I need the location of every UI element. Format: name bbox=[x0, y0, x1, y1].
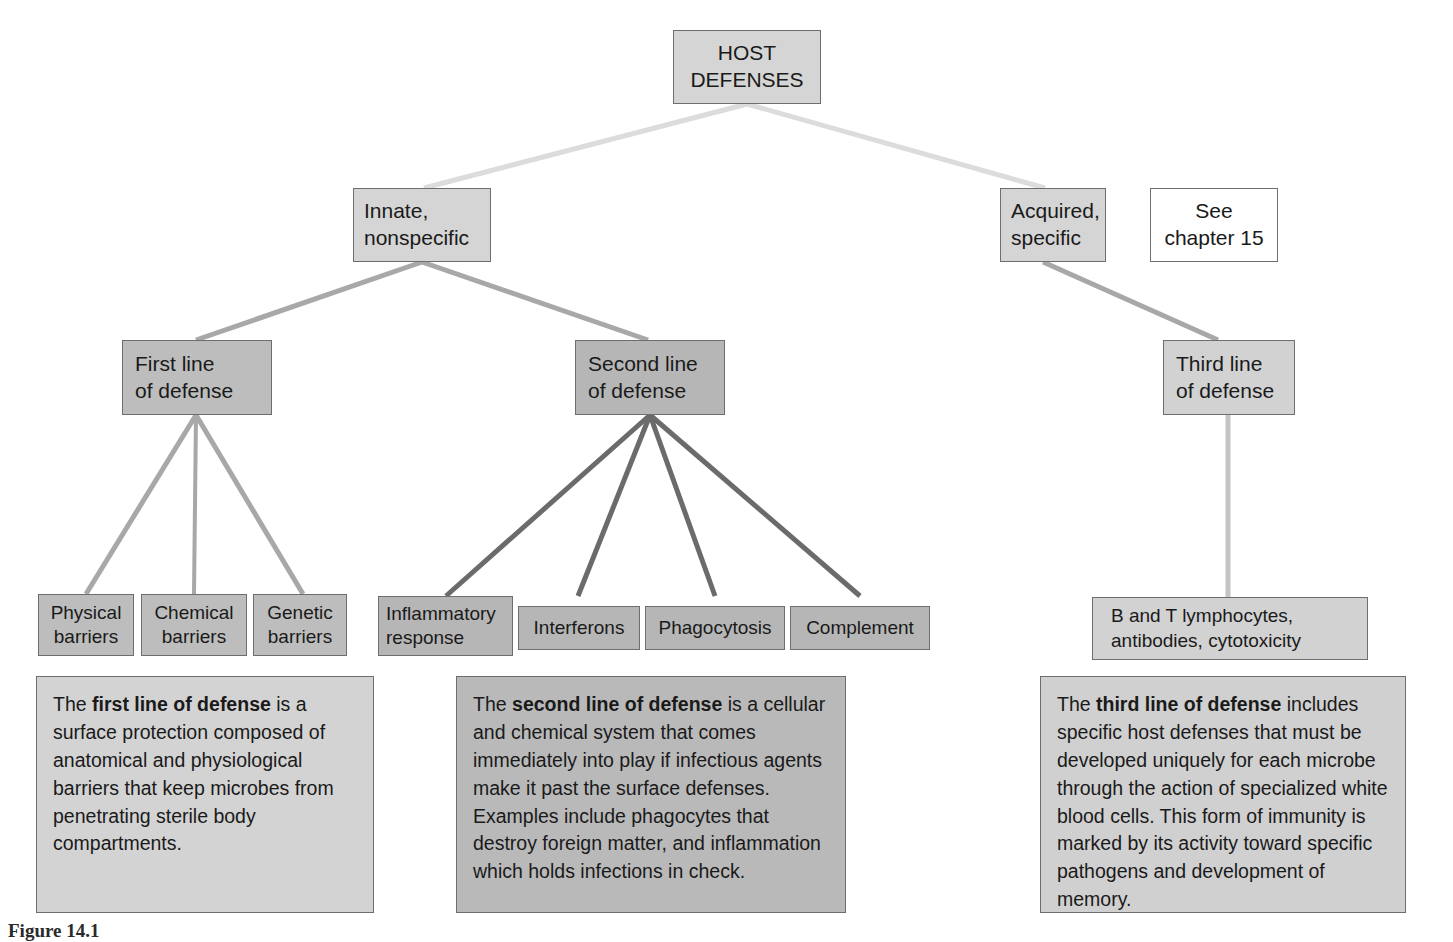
node-inflammatory-line1: Inflammatory bbox=[386, 602, 496, 626]
node-complement-label: Complement bbox=[806, 616, 914, 640]
panel-first-prefix: The bbox=[53, 693, 92, 715]
edge-acquired-to-third bbox=[1043, 262, 1218, 340]
node-third-line-line2: of defense bbox=[1176, 378, 1274, 405]
node-first-line-line1: First line bbox=[135, 351, 214, 378]
node-inflammatory-response[interactable]: Inflammatory response bbox=[378, 596, 513, 656]
figure-caption: Figure 14.1 bbox=[8, 920, 99, 942]
panel-first-rest: is a surface protection composed of anat… bbox=[53, 693, 334, 854]
node-first-line-of-defense[interactable]: First line of defense bbox=[122, 340, 272, 415]
edge-second-to-phagocytosis bbox=[650, 415, 715, 596]
panel-second-prefix: The bbox=[473, 693, 512, 715]
node-phagocytosis[interactable]: Phagocytosis bbox=[645, 606, 785, 650]
node-genetic-barriers[interactable]: Genetic barriers bbox=[253, 594, 347, 656]
node-interferons[interactable]: Interferons bbox=[518, 606, 640, 650]
edge-first-to-genetic bbox=[196, 415, 303, 594]
panel-second-rest: is a cellular and chemical system that c… bbox=[473, 693, 825, 882]
node-second-line-line1: Second line bbox=[588, 351, 698, 378]
node-acquired-line1: Acquired, bbox=[1011, 198, 1100, 225]
node-innate-nonspecific[interactable]: Innate, nonspecific bbox=[353, 188, 491, 262]
edge-first-to-chemical bbox=[194, 415, 196, 594]
node-interferons-label: Interferons bbox=[534, 616, 625, 640]
edge-second-to-complement bbox=[650, 415, 860, 596]
node-genetic-line1: Genetic bbox=[267, 601, 332, 625]
edge-host-to-innate bbox=[424, 104, 747, 188]
node-acquired-specific[interactable]: Acquired, specific bbox=[1000, 188, 1106, 262]
node-third-line-line1: Third line bbox=[1176, 351, 1262, 378]
node-chemical-barriers[interactable]: Chemical barriers bbox=[141, 594, 247, 656]
node-genetic-line2: barriers bbox=[268, 625, 332, 649]
node-lymphocytes-line2: antibodies, cytotoxicity bbox=[1111, 629, 1301, 653]
node-phagocytosis-label: Phagocytosis bbox=[658, 616, 771, 640]
node-innate-line1: Innate, bbox=[364, 198, 428, 225]
node-lymphocytes[interactable]: B and T lymphocytes, antibodies, cytotox… bbox=[1092, 597, 1368, 660]
node-host-defenses-line1: HOST bbox=[718, 40, 776, 67]
panel-third-prefix: The bbox=[1057, 693, 1096, 715]
node-physical-line2: barriers bbox=[54, 625, 118, 649]
node-host-defenses-line2: DEFENSES bbox=[690, 67, 803, 94]
node-chemical-line1: Chemical bbox=[154, 601, 233, 625]
panel-first-bold: first line of defense bbox=[92, 693, 271, 715]
panel-third-line-description: The third line of defense includes speci… bbox=[1040, 676, 1406, 913]
panel-second-line-description: The second line of defense is a cellular… bbox=[456, 676, 846, 913]
node-host-defenses[interactable]: HOST DEFENSES bbox=[673, 30, 821, 104]
node-second-line-of-defense[interactable]: Second line of defense bbox=[575, 340, 725, 415]
panel-third-bold: third line of defense bbox=[1096, 693, 1281, 715]
panel-first-line-description: The first line of defense is a surface p… bbox=[36, 676, 374, 913]
edge-innate-to-second bbox=[422, 262, 648, 340]
node-first-line-line2: of defense bbox=[135, 378, 233, 405]
node-physical-barriers[interactable]: Physical barriers bbox=[38, 594, 134, 656]
node-second-line-line2: of defense bbox=[588, 378, 686, 405]
node-chemical-line2: barriers bbox=[162, 625, 226, 649]
panel-third-rest: includes specific host defenses that mus… bbox=[1057, 693, 1388, 910]
edge-host-to-acquired bbox=[747, 104, 1045, 188]
edge-first-to-physical bbox=[86, 415, 196, 594]
edge-second-to-inflammatory bbox=[446, 415, 650, 596]
node-see-chapter-line2: chapter 15 bbox=[1164, 225, 1263, 252]
node-complement[interactable]: Complement bbox=[790, 606, 930, 650]
node-lymphocytes-line1: B and T lymphocytes, bbox=[1111, 604, 1293, 628]
node-acquired-line2: specific bbox=[1011, 225, 1081, 252]
diagram-canvas: HOST DEFENSES Innate, nonspecific Acquir… bbox=[0, 0, 1453, 942]
node-innate-line2: nonspecific bbox=[364, 225, 469, 252]
edge-innate-to-first bbox=[196, 262, 422, 340]
node-physical-line1: Physical bbox=[51, 601, 122, 625]
panel-second-bold: second line of defense bbox=[512, 693, 722, 715]
node-see-chapter-15[interactable]: See chapter 15 bbox=[1150, 188, 1278, 262]
node-see-chapter-line1: See bbox=[1195, 198, 1232, 225]
node-inflammatory-line2: response bbox=[386, 626, 464, 650]
node-third-line-of-defense[interactable]: Third line of defense bbox=[1163, 340, 1295, 415]
edge-second-to-interferons bbox=[578, 415, 650, 596]
